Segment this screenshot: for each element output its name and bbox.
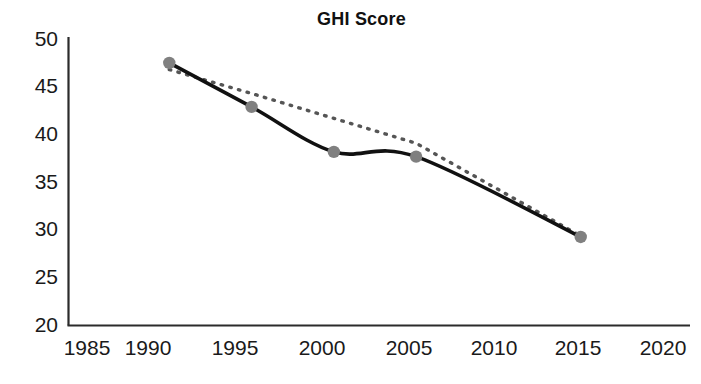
data-point-2005 — [410, 150, 422, 162]
data-point-1990 — [163, 57, 175, 69]
ghi-score-chart: GHI Score 20 25 30 35 40 45 50 1985 1990… — [0, 0, 701, 384]
plot-area — [0, 0, 701, 384]
data-point-1995 — [245, 101, 257, 113]
data-point-2015 — [575, 231, 587, 243]
data-point-2000 — [328, 146, 340, 158]
